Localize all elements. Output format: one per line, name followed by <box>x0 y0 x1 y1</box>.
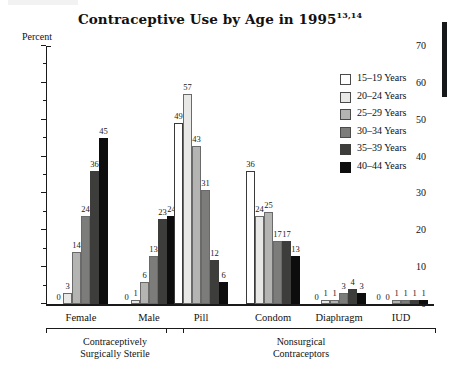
bar-wrapper: 25 <box>264 46 273 304</box>
bar <box>330 300 339 304</box>
bar-wrapper: 45 <box>99 46 108 304</box>
y-axis-tick-major <box>41 82 46 83</box>
bar-wrapper: 57 <box>183 46 192 304</box>
bar-wrapper: 0 <box>54 46 63 304</box>
legend-swatch-icon <box>340 92 351 103</box>
bar-group-pill: 49574331126 <box>174 46 228 304</box>
bar-wrapper: 31 <box>201 46 210 304</box>
supercategory-label: ContraceptivelySurgically Sterile <box>46 336 184 359</box>
bar-wrapper: 1 <box>392 46 401 304</box>
bar <box>219 282 228 304</box>
bar <box>81 216 90 304</box>
bar <box>419 300 428 304</box>
bar <box>192 146 201 304</box>
bar-wrapper: 0 <box>312 46 321 304</box>
legend-label: 40–44 Years <box>357 160 406 171</box>
bar-wrapper: 1 <box>410 46 419 304</box>
chart-title: Contraceptive Use by Age in 199513,14 <box>0 10 440 27</box>
bar-wrapper: 3 <box>357 46 366 304</box>
bar <box>255 216 264 304</box>
bar <box>321 300 330 304</box>
bar-wrapper: 0 <box>374 46 383 304</box>
x-axis-category-label-pill: Pill <box>162 312 240 323</box>
bar <box>273 241 282 304</box>
y-axis-tick-major <box>41 266 46 267</box>
bar <box>90 171 99 304</box>
y-axis-title: Percent <box>22 31 52 42</box>
bar <box>246 171 255 304</box>
bar <box>392 300 401 304</box>
y-axis-tick-major <box>41 229 46 230</box>
bar-wrapper: 43 <box>192 46 201 304</box>
bar <box>149 256 158 304</box>
bar <box>401 300 410 304</box>
bar-wrapper: 17 <box>273 46 282 304</box>
bar <box>410 300 419 304</box>
bar-wrapper: 12 <box>210 46 219 304</box>
bar <box>131 300 140 304</box>
page-artifact-top-left <box>8 0 78 5</box>
bar <box>201 190 210 304</box>
bar <box>291 256 300 304</box>
bar-wrapper: 6 <box>140 46 149 304</box>
bar-wrapper: 0 <box>122 46 131 304</box>
y-axis-tick-minor <box>43 63 46 64</box>
page-artifact-right-edge <box>442 22 447 97</box>
bar-wrapper: 23 <box>158 46 167 304</box>
bar <box>174 123 183 304</box>
bar <box>183 94 192 304</box>
bar-wrapper: 36 <box>90 46 99 304</box>
supercategory-label-line2: Contraceptors <box>166 348 436 360</box>
y-axis-tick-major <box>41 303 46 304</box>
bar-wrapper: 0 <box>383 46 392 304</box>
bar-wrapper: 24 <box>81 46 90 304</box>
y-axis-tick-major <box>41 192 46 193</box>
bar-wrapper: 1 <box>401 46 410 304</box>
bar-group-male: 016132324 <box>122 46 176 304</box>
bar-value-label: 13 <box>286 245 305 254</box>
bar <box>357 293 366 304</box>
bar-value-label: 45 <box>94 127 113 136</box>
supercategory-bracket <box>46 328 184 333</box>
bar-wrapper: 36 <box>246 46 255 304</box>
y-axis-tick-minor <box>43 211 46 212</box>
chart-title-superscript: 13,14 <box>337 10 363 20</box>
legend-label: 15–19 Years <box>357 72 406 83</box>
y-axis-tick-minor <box>43 285 46 286</box>
supercategory-label: NonsurgicalContraceptors <box>166 336 436 359</box>
x-axis-category-label-female: Female <box>42 312 120 323</box>
bar <box>63 293 72 304</box>
legend-swatch-icon <box>340 127 351 138</box>
legend-label: 20–24 Years <box>357 90 406 101</box>
bar-value-label: 6 <box>214 271 233 280</box>
bar-wrapper: 3 <box>63 46 72 304</box>
bar <box>140 282 149 304</box>
bar-wrapper: 1 <box>321 46 330 304</box>
y-axis-tick-major <box>41 156 46 157</box>
bar-value-label: 1 <box>414 289 433 298</box>
legend-swatch-icon <box>340 144 351 155</box>
bar-wrapper: 1 <box>419 46 428 304</box>
bar-wrapper: 13 <box>149 46 158 304</box>
legend-swatch-icon <box>340 162 351 173</box>
bar <box>210 260 219 304</box>
bar-wrapper: 14 <box>72 46 81 304</box>
legend-label: 35–39 Years <box>357 142 406 153</box>
legend-label: 30–34 Years <box>357 125 406 136</box>
bar-wrapper: 24 <box>255 46 264 304</box>
y-axis-top-cap <box>46 46 51 47</box>
y-axis-tick-minor <box>43 248 46 249</box>
legend-swatch-icon <box>340 74 351 85</box>
bar-wrapper: 1 <box>131 46 140 304</box>
chart-title-text: Contraceptive Use by Age in 1995 <box>78 11 337 27</box>
x-axis-line <box>46 304 434 306</box>
supercategory-bracket <box>166 328 436 333</box>
y-axis-tick-minor <box>43 100 46 101</box>
bar-group-iud: 001111 <box>374 46 428 304</box>
y-axis-tick-minor <box>43 174 46 175</box>
supercategory-label-line1: Contraceptively <box>46 336 184 348</box>
legend-label: 25–29 Years <box>357 107 406 118</box>
bar-group-female: 0314243645 <box>54 46 108 304</box>
bar <box>264 212 273 304</box>
bar-wrapper: 6 <box>219 46 228 304</box>
